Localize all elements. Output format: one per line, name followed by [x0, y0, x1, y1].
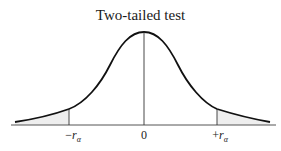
tick-label-neg-r-alpha: −rα — [65, 128, 81, 144]
tick-subscript: α — [77, 135, 81, 144]
tick-sign: − — [65, 128, 72, 142]
tick-sign: + — [212, 128, 219, 142]
tick-label-zero: 0 — [141, 128, 147, 143]
two-tailed-test-diagram: Two-tailed test −rα 0 +rα — [0, 0, 281, 151]
tick-label-pos-r-alpha: +rα — [212, 128, 228, 144]
diagram-title: Two-tailed test — [0, 7, 281, 24]
bell-curve — [15, 32, 270, 122]
tick-subscript: α — [224, 135, 228, 144]
